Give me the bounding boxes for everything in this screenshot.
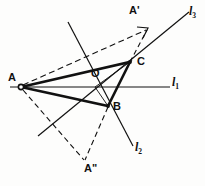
dashed-A-to-A-double-prime — [23, 90, 84, 160]
geometry-figure: A B C O A' A" l1 l2 l3 — [0, 0, 205, 186]
label-line-l3-sub: 3 — [192, 11, 196, 20]
geometry-canvas — [0, 0, 205, 186]
label-point-B: B — [113, 101, 121, 112]
arrowhead-A-prime — [137, 27, 148, 38]
label-line-l3: l3 — [189, 5, 196, 20]
label-point-A-double-prime: A" — [84, 163, 97, 174]
vertex-dot-B — [106, 104, 110, 108]
vertex-dot-A — [18, 84, 23, 89]
label-point-A: A — [8, 72, 16, 83]
label-line-l1-sub: 1 — [175, 82, 179, 91]
label-point-C: C — [137, 56, 145, 67]
dashed-A-to-A-prime — [23, 30, 146, 85]
vertex-dot-C — [128, 60, 132, 64]
label-line-l2: l2 — [135, 141, 142, 156]
dashed-B-to-A-double-prime — [85, 107, 108, 160]
label-point-O: O — [91, 68, 100, 79]
label-point-A-prime: A' — [129, 5, 140, 16]
label-line-l2-sub: 2 — [138, 147, 142, 156]
label-line-l1: l1 — [172, 76, 179, 91]
